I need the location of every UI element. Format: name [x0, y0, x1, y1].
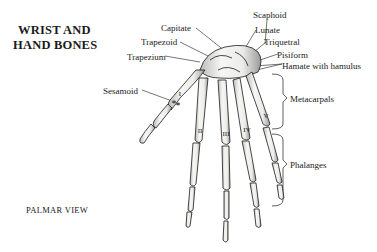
thumb-proximal-phalanx: [153, 104, 172, 128]
bones: [140, 45, 284, 242]
ring-proximal-phalanx: [242, 141, 256, 182]
ring-distal-phalanx: [254, 209, 261, 228]
numeral-V: V: [263, 112, 268, 120]
numeral-IV: IV: [243, 126, 250, 134]
thumb-distal-phalanx: [140, 124, 155, 143]
hand-skeleton-illustration: I II III IV V: [0, 0, 377, 252]
middle-middle-phalanx: [224, 191, 229, 220]
index-distal-phalanx: [186, 212, 192, 228]
metacarpals-bracket: [272, 74, 287, 129]
middle-distal-phalanx: [223, 221, 228, 242]
index-proximal-phalanx: [190, 143, 200, 186]
ring-middle-phalanx: [250, 183, 259, 208]
index-middle-phalanx: [188, 187, 195, 212]
little-proximal-phalanx: [263, 127, 278, 162]
middle-proximal-phalanx: [222, 146, 230, 190]
numeral-II: II: [198, 127, 203, 135]
little-middle-phalanx: [272, 163, 282, 184]
numeral-III: III: [223, 130, 231, 138]
